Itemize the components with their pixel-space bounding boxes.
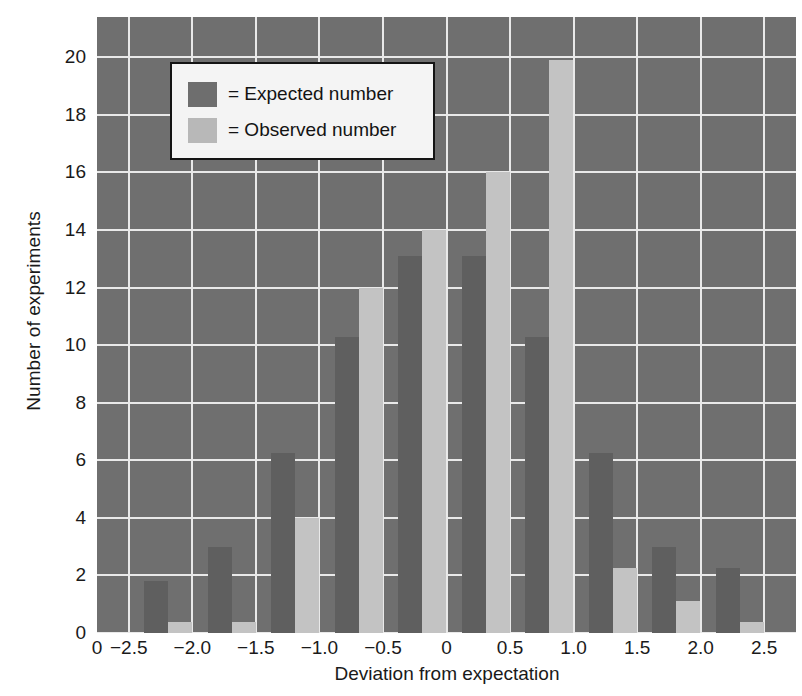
chart-legend: = Expected number = Observed number xyxy=(170,62,435,160)
x-tick-label: −1.0 xyxy=(289,638,349,657)
bar-observed xyxy=(295,518,319,633)
y-tick-label: 12 xyxy=(38,278,86,297)
legend-label-expected: = Expected number xyxy=(228,83,393,105)
bar-observed xyxy=(613,568,637,633)
legend-item-expected: = Expected number xyxy=(188,76,433,112)
bar-expected xyxy=(271,453,295,633)
x-tick-label: 2.0 xyxy=(671,638,731,657)
y-tick-label: 2 xyxy=(38,565,86,584)
y-tick-label: 6 xyxy=(38,450,86,469)
y-tick-label: 4 xyxy=(38,508,86,527)
y-axis-tick-labels: 02468101214161820 xyxy=(34,0,86,696)
bar-observed xyxy=(168,622,192,634)
y-tick-label: 16 xyxy=(38,162,86,181)
x-axis-title: Deviation from expectation xyxy=(97,663,797,685)
gridline-vertical xyxy=(763,17,765,633)
y-tick-label: 10 xyxy=(38,335,86,354)
bar-chart-figure: Number of experiments 02468101214161820 … xyxy=(0,0,802,696)
x-tick-label: −2.0 xyxy=(162,638,222,657)
bar-expected xyxy=(208,547,232,633)
x-tick-label: 1.0 xyxy=(544,638,604,657)
legend-label-observed: = Observed number xyxy=(228,119,396,141)
bar-observed xyxy=(676,601,700,633)
legend-swatch-expected-icon xyxy=(188,82,217,107)
y-tick-label: 14 xyxy=(38,220,86,239)
legend-swatch-observed-icon xyxy=(188,118,217,143)
x-tick-label: 0.5 xyxy=(480,638,540,657)
bar-expected xyxy=(144,581,168,633)
x-tick-label: 0 xyxy=(417,638,477,657)
x-tick-label: 2.5 xyxy=(734,638,794,657)
x-tick-label: 1.5 xyxy=(607,638,667,657)
bar-expected xyxy=(716,568,740,633)
x-tick-label: −1.5 xyxy=(226,638,286,657)
bar-expected xyxy=(398,256,422,633)
bar-observed xyxy=(740,622,764,634)
bar-observed xyxy=(422,230,446,633)
y-tick-label: 8 xyxy=(38,393,86,412)
bar-expected xyxy=(525,337,549,633)
bar-expected xyxy=(589,453,613,633)
bar-observed xyxy=(549,60,573,633)
gridline-vertical xyxy=(128,17,130,633)
x-tick-label: −2.5 xyxy=(99,638,159,657)
bar-expected xyxy=(652,547,676,633)
y-tick-label: 20 xyxy=(38,47,86,66)
x-tick-label: −0.5 xyxy=(353,638,413,657)
y-tick-label: 18 xyxy=(38,105,86,124)
gridline-vertical xyxy=(700,17,702,633)
bar-observed xyxy=(486,172,510,633)
bar-expected xyxy=(335,337,359,633)
bar-observed xyxy=(232,622,256,634)
legend-item-observed: = Observed number xyxy=(188,112,433,148)
bar-observed xyxy=(359,288,383,633)
bar-expected xyxy=(462,256,486,633)
gridline-vertical xyxy=(636,17,638,633)
